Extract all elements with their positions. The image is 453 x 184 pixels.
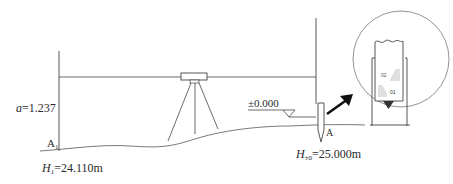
- tripod-leg-left: [168, 83, 191, 141]
- instrument-base: [190, 80, 199, 83]
- point-a1-letter: A: [47, 137, 55, 149]
- h0-sub: ±0: [305, 154, 312, 162]
- stake-a: [318, 103, 324, 142]
- h0-value: =25.000m: [312, 147, 361, 161]
- h0-elevation-label: H±0=25.000m: [296, 148, 361, 162]
- rod-mark-01: 01: [390, 89, 396, 95]
- leveling-diagram: 02 01 a=1.237 A1 H1=24.110m ±0.000 A H±0…: [0, 0, 453, 184]
- point-a1-label: A1: [47, 138, 58, 151]
- h1-var: H: [42, 161, 51, 175]
- tripod-leg-right: [199, 83, 218, 129]
- backsight-value: =1.237: [22, 101, 56, 115]
- rod-mark-02: 02: [381, 72, 387, 78]
- inset-marker-triangle-icon: [383, 101, 394, 109]
- h1-value: =24.110m: [54, 161, 103, 175]
- point-a-label: A: [326, 128, 333, 138]
- diagram-drawing: 02 01: [0, 0, 453, 184]
- point-a1-sub: 1: [55, 143, 59, 151]
- level-instrument: [181, 73, 207, 80]
- h1-elevation-label: H1=24.110m: [42, 162, 103, 176]
- datum-label: ±0.000: [248, 98, 279, 109]
- datum-triangle-icon: [283, 110, 295, 117]
- h0-var: H: [296, 147, 305, 161]
- backsight-reading-label: a=1.237: [16, 102, 56, 114]
